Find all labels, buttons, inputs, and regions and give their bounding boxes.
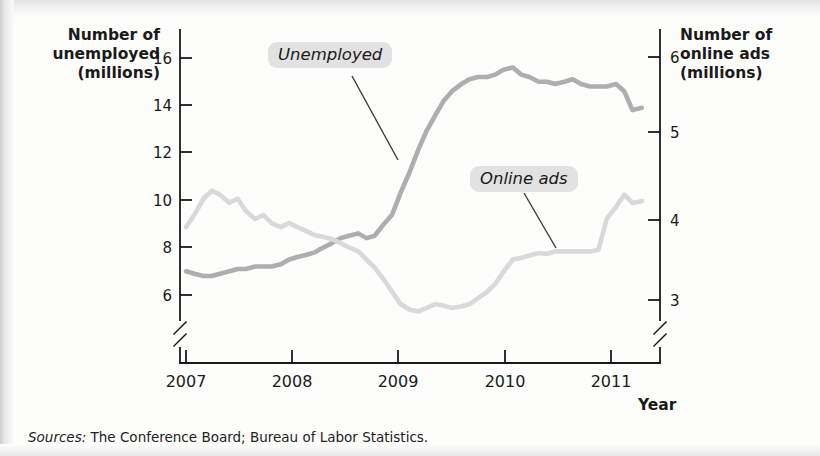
left-tick-16: 16	[153, 50, 172, 68]
right-tick-4: 4	[670, 212, 680, 230]
series-line-online-ads	[186, 191, 642, 312]
right-axis-ticks	[648, 57, 660, 300]
series-label-online-ads: Online ads	[470, 166, 578, 192]
x-tick-2008: 2008	[272, 372, 313, 391]
x-tick-2010: 2010	[485, 372, 526, 391]
sources-note: Sources: The Conference Board; Bureau of…	[28, 429, 428, 445]
x-axis-tick-labels: 2007 2008 2009 2010 2011	[166, 372, 632, 391]
x-tick-2009: 2009	[378, 372, 419, 391]
right-tick-3: 3	[670, 292, 680, 310]
line-chart: 16 14 12 10 8 6 6 5 4 3 2	[0, 0, 820, 456]
right-axis-tick-labels: 6 5 4 3	[670, 49, 680, 310]
x-tick-2007: 2007	[166, 372, 207, 391]
right-tick-5: 5	[670, 124, 680, 142]
figure-page: Number of unemployed (millions) Number o…	[0, 0, 820, 456]
left-tick-6: 6	[162, 287, 172, 305]
left-tick-14: 14	[153, 97, 172, 115]
axis-lines	[174, 30, 666, 363]
sources-text: The Conference Board; Bureau of Labor St…	[86, 429, 428, 445]
x-axis-ticks	[186, 350, 611, 363]
x-tick-2011: 2011	[591, 372, 632, 391]
right-tick-6: 6	[670, 49, 680, 67]
left-tick-10: 10	[153, 192, 172, 210]
left-axis-tick-labels: 16 14 12 10 8 6	[153, 50, 172, 305]
left-axis-ticks	[180, 58, 192, 295]
left-tick-8: 8	[162, 239, 172, 257]
sources-label: Sources:	[28, 429, 86, 445]
series-label-unemployed: Unemployed	[268, 42, 392, 68]
leader-line-unemployed	[352, 76, 398, 160]
left-tick-12: 12	[153, 144, 172, 162]
leader-line-online-ads	[524, 193, 556, 248]
